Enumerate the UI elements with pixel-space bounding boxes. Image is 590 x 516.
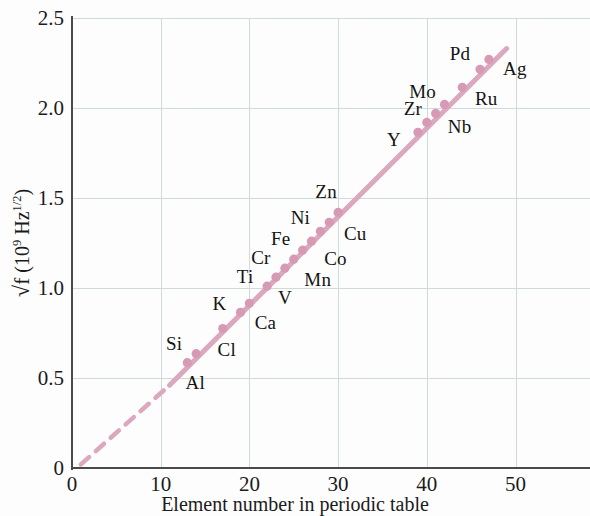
element-label: Ca [255, 312, 277, 334]
element-label: V [278, 287, 292, 309]
data-point-marker [192, 349, 201, 358]
element-label: Fe [271, 228, 290, 250]
data-series [0, 0, 590, 516]
element-label: Ru [475, 88, 498, 110]
element-label: Ni [291, 207, 310, 229]
element-label: Cr [251, 247, 270, 269]
element-label: Si [166, 333, 182, 355]
data-point-marker [475, 65, 484, 74]
element-label: Zn [315, 181, 337, 203]
y-axis-title-exponent-nine: 9 [10, 240, 24, 246]
data-point-marker [316, 227, 325, 236]
element-label: Mn [304, 269, 331, 291]
data-point-marker [413, 128, 422, 137]
data-point-marker [440, 100, 449, 109]
y-axis-title-units-hz: Hz [11, 211, 33, 239]
extrapolation-dashed-line [81, 385, 170, 464]
element-label: Ti [237, 266, 254, 288]
data-point-marker [236, 308, 245, 317]
y-axis-title-units-close: ) [11, 189, 33, 196]
element-label: Ag [503, 58, 527, 80]
data-point-marker [289, 255, 298, 264]
data-point-marker [334, 208, 343, 217]
element-label: Nb [448, 116, 472, 138]
element-label: Co [324, 248, 347, 270]
data-point-marker [422, 118, 431, 127]
data-point-marker [280, 264, 289, 273]
moseley-plot-figure: 00.51.01.52.02.5 01020304050 AlSiClKCaTi… [0, 0, 590, 516]
element-label: Mo [409, 81, 436, 103]
data-point-marker [263, 282, 272, 291]
data-point-marker [458, 83, 467, 92]
y-axis-title: √f (109 Hz1/2) [9, 133, 35, 353]
data-point-marker [431, 109, 440, 118]
element-label: Y [387, 129, 401, 151]
x-axis-title: Element number in periodic table [0, 493, 590, 516]
y-axis-title-exponent-half: 1/2 [10, 196, 24, 212]
data-point-marker [298, 246, 307, 255]
element-label: K [213, 293, 227, 315]
data-point-marker [271, 273, 280, 282]
data-point-marker [484, 55, 493, 64]
data-point-marker [218, 324, 227, 333]
element-label: Al [186, 372, 205, 394]
y-axis-title-radical: √f [9, 278, 34, 297]
data-point-marker [325, 218, 334, 227]
element-label: Cl [218, 339, 236, 361]
data-point-marker [307, 237, 316, 246]
data-point-markers [183, 55, 494, 368]
y-axis-title-units-open: (10 [11, 246, 33, 278]
data-point-marker [245, 299, 254, 308]
element-label: Pd [450, 43, 470, 65]
element-label: Cu [344, 223, 367, 245]
data-point-marker [183, 358, 192, 367]
